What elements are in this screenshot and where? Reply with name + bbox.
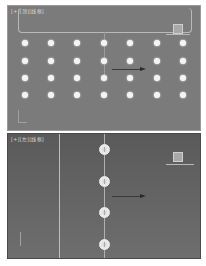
x-axis-arrow-icon	[140, 194, 146, 198]
selection-frame	[18, 8, 192, 33]
viewport-top[interactable]: [+][顶][线框]	[7, 5, 201, 131]
sphere-object[interactable]	[22, 92, 28, 98]
viewport-left-label[interactable]: [+][左][线框]	[11, 135, 44, 142]
sphere-object[interactable]	[127, 58, 133, 64]
sphere-object[interactable]	[101, 92, 107, 98]
sphere-object[interactable]	[74, 58, 80, 64]
sphere-object[interactable]	[74, 40, 80, 46]
sphere-object[interactable]	[48, 75, 54, 81]
sphere-object[interactable]	[180, 75, 186, 81]
sphere-object[interactable]	[180, 40, 186, 46]
sphere-object[interactable]	[22, 75, 28, 81]
viewcube-base	[166, 164, 194, 165]
sphere-object[interactable]	[180, 92, 186, 98]
sphere-object[interactable]	[48, 58, 54, 64]
sphere-object[interactable]	[99, 239, 110, 250]
viewcube-icon[interactable]	[173, 152, 183, 162]
world-axis-icon	[20, 232, 22, 246]
sphere-object[interactable]	[127, 75, 133, 81]
sphere-object[interactable]	[74, 92, 80, 98]
sphere-object[interactable]	[74, 75, 80, 81]
sphere-object[interactable]	[154, 92, 160, 98]
sphere-object[interactable]	[99, 144, 110, 155]
sphere-object[interactable]	[154, 75, 160, 81]
transform-gizmo-x-axis[interactable]	[112, 196, 142, 197]
sphere-object[interactable]	[22, 40, 28, 46]
sphere-object[interactable]	[180, 58, 186, 64]
sphere-object[interactable]	[127, 40, 133, 46]
grid-line	[59, 134, 60, 259]
viewcube-base	[166, 34, 190, 35]
transform-gizmo-x-axis[interactable]	[112, 69, 142, 70]
world-axis-icon	[18, 110, 27, 123]
sphere-object[interactable]	[154, 58, 160, 64]
viewport-left[interactable]: [+][左][线框]	[7, 133, 201, 259]
sphere-object[interactable]	[22, 58, 28, 64]
sphere-object[interactable]	[101, 40, 107, 46]
x-axis-arrow-icon	[140, 67, 146, 71]
sphere-object[interactable]	[48, 92, 54, 98]
sphere-object[interactable]	[101, 75, 107, 81]
sphere-object[interactable]	[154, 40, 160, 46]
sphere-object[interactable]	[101, 58, 107, 64]
sphere-object[interactable]	[99, 176, 110, 187]
sphere-object[interactable]	[48, 40, 54, 46]
viewcube-icon[interactable]	[173, 24, 183, 34]
sphere-object[interactable]	[127, 92, 133, 98]
sphere-object[interactable]	[99, 207, 110, 218]
